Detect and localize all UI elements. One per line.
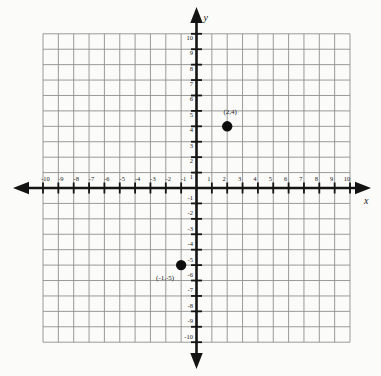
coordinate-plane: -10-9-8-7-6-5-4-3-2-11234567891010987654… [0,0,381,376]
point-label: (-1,-5) [156,274,175,282]
x-tick-label: 2 [223,175,226,182]
x-tick-label: -6 [104,175,110,182]
x-tick-label: 4 [253,175,257,182]
x-tick-label: 1 [207,175,210,182]
y-tick-label: 1 [190,173,193,180]
plotted-point [176,260,186,270]
x-axis-left-arrow [13,182,29,194]
y-tick-label: 2 [190,157,193,164]
x-tick-label: 3 [238,175,241,182]
y-tick-label: 10 [187,34,194,41]
y-tick-label: -1 [188,194,193,201]
x-tick-label: -5 [120,175,125,182]
y-tick-label: 6 [190,95,194,102]
x-tick-label: -9 [58,175,63,182]
y-axis-bottom-arrow [190,353,202,369]
x-tick-label: 8 [315,175,318,182]
y-tick-label: -3 [188,225,193,232]
y-tick-label: 4 [190,126,194,133]
x-tick-label: 5 [269,175,272,182]
x-tick-label: -1 [181,175,186,182]
y-tick-label: 7 [190,80,194,87]
x-tick-label: -3 [150,175,155,182]
y-tick-label: -2 [188,209,193,216]
y-tick-label: -6 [188,271,194,278]
point-label: (2,4) [223,108,237,116]
plotted-point [222,121,232,131]
axes [13,7,371,369]
y-tick-label: -10 [184,333,193,340]
y-tick-label: -4 [188,240,194,247]
x-tick-label: -2 [166,175,171,182]
x-tick-label: 6 [284,175,288,182]
x-axis-letter: x [363,195,369,206]
x-tick-label: -10 [41,175,50,182]
y-tick-label: -8 [188,302,193,309]
x-tick-label: -7 [89,175,95,182]
y-tick-label: 3 [190,142,193,149]
x-tick-label: 9 [330,175,333,182]
y-tick-label: 9 [190,49,193,56]
y-tick-label: -5 [188,256,193,263]
x-axis-right-arrow [355,182,371,194]
y-tick-label: -9 [188,317,193,324]
worksheet-page: -10-9-8-7-6-5-4-3-2-11234567891010987654… [0,0,381,376]
x-tick-label: -4 [135,175,141,182]
y-tick-label: -7 [188,286,194,293]
y-axis-letter: y [203,12,209,23]
x-tick-label: 7 [299,175,303,182]
y-tick-label: 5 [190,111,193,118]
y-tick-label: 8 [190,65,193,72]
y-axis-top-arrow [190,7,202,23]
x-tick-label: -8 [73,175,78,182]
x-tick-label: 10 [344,175,351,182]
